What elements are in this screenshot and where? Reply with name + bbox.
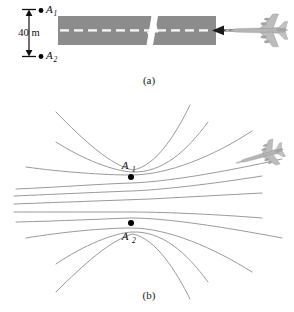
point-a1-panel-a: A 1 [39,3,58,18]
point-a2-label: A [121,230,129,242]
dimension-arrowhead-top [26,10,33,17]
panel-b: A 1 A 2 (b) [14,105,287,302]
dimension-label: 40 m [18,27,39,38]
point-a1-dot [39,8,44,13]
dimension-arrowhead-bottom [26,50,33,57]
fringe-lower-3 [26,228,252,272]
point-a2-label: A [45,49,53,61]
point-a1-subscript: 1 [54,9,58,18]
point-a2-panel-a: A 2 [39,49,58,64]
fringe-lower-2 [16,218,282,238]
point-a2-subscript: 2 [132,236,136,245]
airplane-top-view [225,14,288,47]
caption-panel-a: (a) [143,74,156,87]
fringe-lower-1 [14,212,262,218]
fringe-upper-1 [14,176,262,196]
airplane-top-view-panel-b [232,137,287,176]
physics-figure-svg: 40 m A 1 A 2 (a) [0,0,294,312]
caption-panel-b: (b) [143,289,156,302]
dimension-40m: 40 m [18,10,39,57]
point-a1-subscript: 1 [132,165,136,174]
point-a1-panel-b: A 1 [121,159,136,180]
panel-a: 40 m A 1 A 2 (a) [18,3,287,87]
point-a1-dot [128,174,134,180]
point-a2-dot [39,54,44,59]
point-a2-subscript: 2 [54,55,58,64]
point-a1-label: A [121,159,129,171]
point-a2-dot [128,220,134,226]
figure-container: 40 m A 1 A 2 (a) [0,0,294,312]
point-a1-label: A [45,3,53,15]
